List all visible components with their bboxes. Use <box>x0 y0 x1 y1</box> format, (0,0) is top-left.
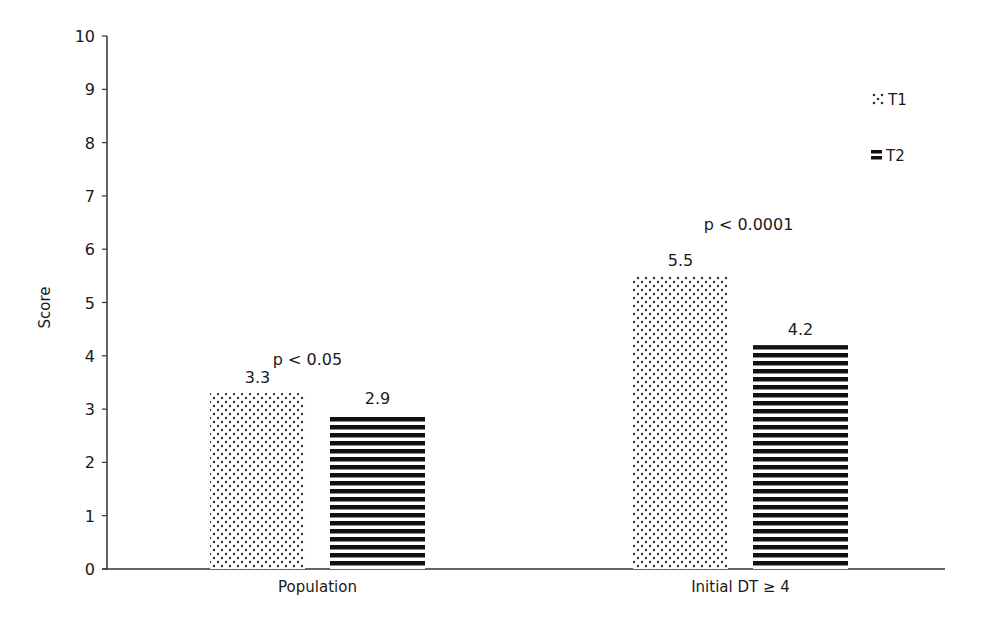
x-category-label: Initial DT ≥ 4 <box>691 578 790 596</box>
legend-item-t2: T2 <box>871 147 905 165</box>
y-tick-label: 3 <box>85 400 95 419</box>
bars <box>210 276 848 569</box>
y-axis-label: Score <box>36 286 54 328</box>
dots-icon <box>881 102 884 105</box>
bar-t2-0 <box>330 414 425 569</box>
value-label: 3.3 <box>245 368 270 387</box>
stripes-icon <box>871 156 882 160</box>
y-tick-label: 8 <box>85 134 95 153</box>
bar-t1-1 <box>633 276 728 569</box>
legend: T1T2 <box>871 91 907 165</box>
bar-t1-0 <box>210 393 305 569</box>
y-tick-label: 0 <box>85 560 95 579</box>
bar-t2-1 <box>753 345 848 569</box>
legend-label: T1 <box>887 91 907 109</box>
dots-icon <box>877 98 880 101</box>
dots-icon <box>881 94 884 97</box>
legend-item-t1: T1 <box>873 91 907 109</box>
p-value-annotation: p < 0.0001 <box>704 215 794 234</box>
y-tick-label: 7 <box>85 187 95 206</box>
y-tick-label: 1 <box>85 507 95 526</box>
y-tick-label: 9 <box>85 80 95 99</box>
dots-icon <box>873 102 876 105</box>
value-label: 2.9 <box>365 389 390 408</box>
y-tick-label: 6 <box>85 240 95 259</box>
legend-label: T2 <box>885 147 905 165</box>
p-value-annotation: p < 0.05 <box>273 350 342 369</box>
y-tick-label: 2 <box>85 453 95 472</box>
value-label: 4.2 <box>788 320 813 339</box>
bar-chart: 012345678910Score 3.32.9Populationp < 0.… <box>0 0 997 626</box>
x-category-label: Population <box>278 578 357 596</box>
y-tick-label: 4 <box>85 347 95 366</box>
stripes-icon <box>871 150 882 154</box>
dots-icon <box>873 94 876 97</box>
value-label: 5.5 <box>668 251 693 270</box>
y-tick-label: 5 <box>85 294 95 313</box>
y-tick-label: 10 <box>75 27 95 46</box>
